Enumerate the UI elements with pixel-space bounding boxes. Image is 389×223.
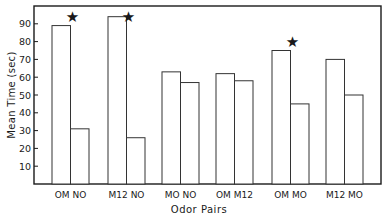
bar-no	[181, 83, 200, 184]
chart-canvas: 102030405060708090 ★★★ OM NOM12 NOMO NOO…	[0, 0, 389, 223]
x-tick-label: M12 NO	[109, 190, 145, 200]
bar-mo	[345, 95, 364, 184]
bar-om	[272, 51, 291, 185]
bar-chart: 102030405060708090 ★★★ OM NOM12 NOMO NOO…	[0, 0, 389, 223]
y-tick-label: 70	[19, 54, 31, 65]
y-tick-label: 20	[19, 143, 31, 154]
x-tick-label: MO NO	[165, 190, 197, 200]
x-axis-title: Odor Pairs	[171, 204, 227, 215]
y-tick-label: 50	[19, 90, 31, 101]
bar-mo	[162, 72, 181, 184]
bar-no	[127, 138, 146, 184]
x-tick-label: OM M12	[216, 190, 253, 200]
bar-m12	[326, 59, 345, 184]
significance-markers: ★★★	[66, 8, 299, 51]
x-tick-label: OM NO	[55, 190, 87, 200]
significance-star-icon: ★	[66, 8, 79, 26]
y-tick-label: 90	[19, 18, 31, 29]
significance-star-icon: ★	[122, 8, 135, 26]
y-axis: 102030405060708090	[19, 18, 38, 171]
x-axis-labels: OM NOM12 NOMO NOOM M12OM MOM12 MO	[55, 190, 363, 200]
y-tick-label: 10	[19, 161, 31, 172]
y-tick-label: 40	[19, 107, 31, 118]
bars	[52, 17, 363, 184]
bar-m12	[235, 81, 254, 184]
y-tick-label: 30	[19, 125, 31, 136]
significance-star-icon: ★	[286, 33, 299, 51]
bar-om	[216, 74, 235, 184]
bar-mo	[291, 104, 310, 184]
x-tick-label: M12 MO	[326, 190, 363, 200]
y-tick-label: 60	[19, 72, 31, 83]
y-tick-label: 80	[19, 36, 31, 47]
bar-no	[71, 129, 90, 184]
y-axis-title: Mean Time (sec)	[6, 51, 17, 138]
bar-m12	[108, 17, 127, 184]
bar-om	[52, 26, 71, 184]
x-tick-label: OM MO	[274, 190, 307, 200]
